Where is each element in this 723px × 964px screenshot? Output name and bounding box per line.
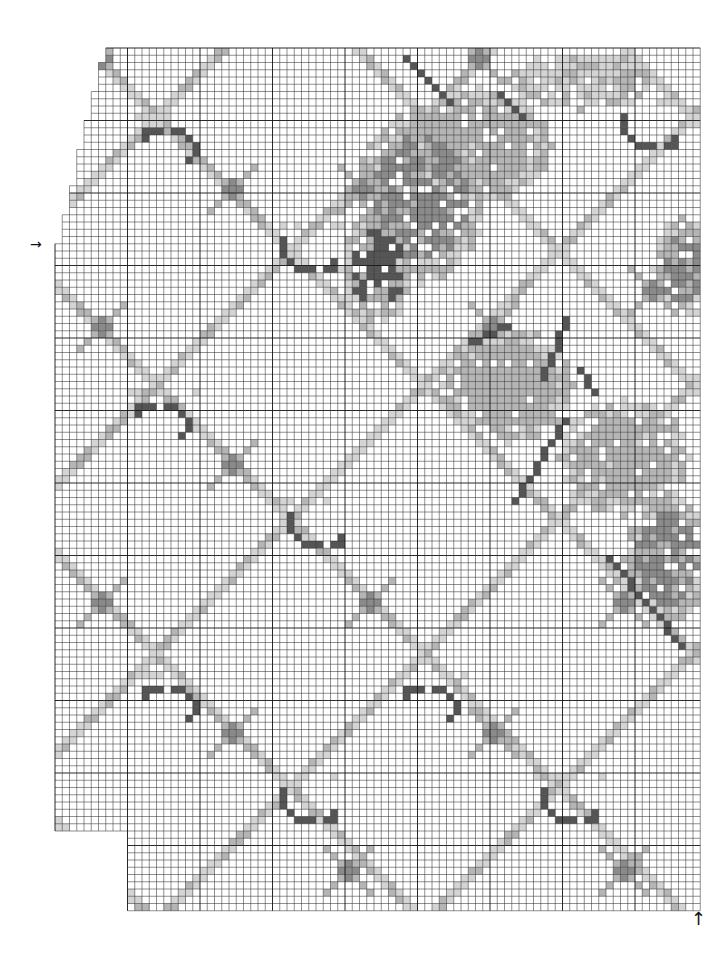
- pattern-chart: [0, 0, 723, 964]
- start-row-arrow-icon: →: [30, 237, 42, 251]
- start-column-arrow-icon: ↑: [691, 912, 706, 926]
- chart-stitches: [55, 48, 700, 911]
